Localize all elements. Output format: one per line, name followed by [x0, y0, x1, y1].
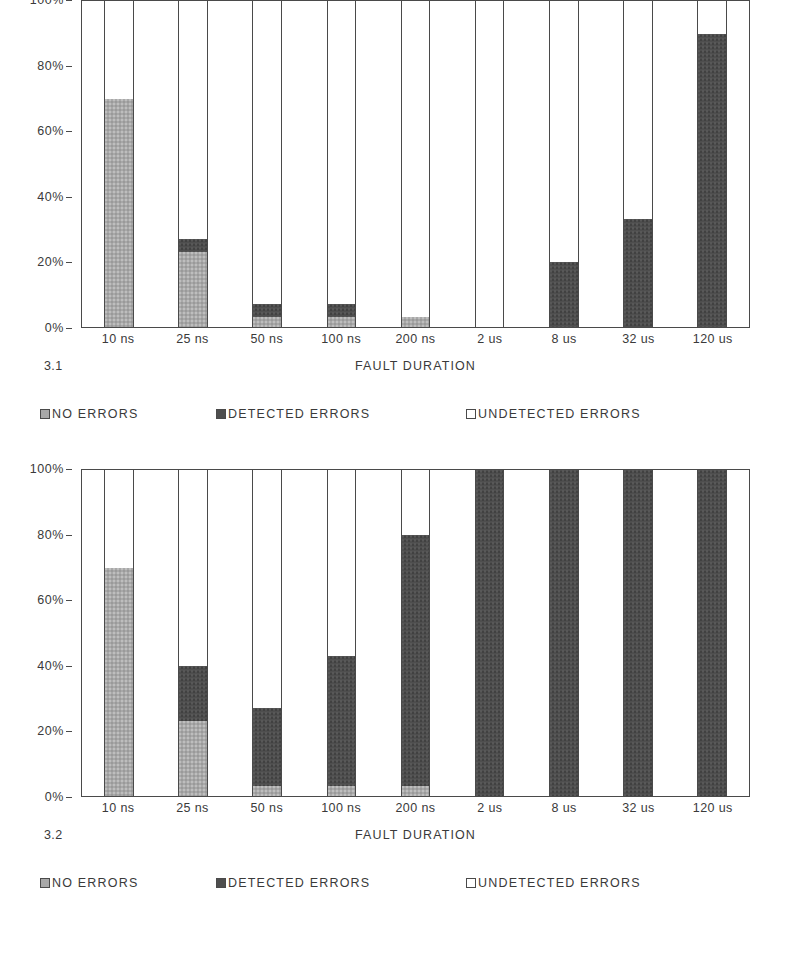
- stacked-bar[interactable]: [104, 1, 134, 327]
- y-tick-label: 80%: [37, 528, 64, 542]
- x-tick-label: 120 us: [676, 801, 750, 815]
- stacked-bar[interactable]: [401, 470, 431, 796]
- stacked-bar[interactable]: [104, 470, 134, 796]
- bar-segment-undetected-errors: [253, 1, 281, 304]
- bar-segment-undetected-errors: [253, 470, 281, 708]
- bar-slot: [82, 1, 156, 327]
- legend-item-undetected[interactable]: UNDETECTED ERRORS: [466, 407, 641, 421]
- stacked-bar[interactable]: [252, 1, 282, 327]
- x-tick-label: 50 ns: [230, 332, 304, 346]
- y-tick-mark: [66, 535, 72, 536]
- bar-segment-detected-errors: [698, 34, 726, 327]
- bar-segment-undetected-errors: [179, 1, 207, 239]
- bar-segment-no-errors: [402, 786, 430, 796]
- x-tick-label: 25 ns: [155, 801, 229, 815]
- bars-container-3-1: [81, 0, 750, 328]
- stacked-bar[interactable]: [401, 1, 431, 327]
- bar-slot: [230, 1, 304, 327]
- legend-item-none[interactable]: NO ERRORS: [40, 407, 139, 421]
- stacked-bar[interactable]: [549, 470, 579, 796]
- figure-number-3-2: 3.2: [44, 828, 63, 842]
- y-tick-label: 100%: [30, 462, 64, 476]
- y-tick-mark: [66, 600, 72, 601]
- y-tick-label: 0%: [45, 790, 64, 804]
- stacked-bar[interactable]: [327, 1, 357, 327]
- x-tick-label: 120 us: [676, 332, 750, 346]
- bar-slot: [601, 1, 675, 327]
- x-tick-label: 25 ns: [155, 332, 229, 346]
- legend-item-none[interactable]: NO ERRORS: [40, 876, 139, 890]
- legend-label: UNDETECTED ERRORS: [478, 407, 641, 421]
- x-tick-label: 8 us: [527, 332, 601, 346]
- legend-label: DETECTED ERRORS: [228, 407, 370, 421]
- stacked-bar[interactable]: [178, 470, 208, 796]
- x-tick-label: 100 ns: [304, 801, 378, 815]
- axis-title-row-3-2: 3.2 FAULT DURATION: [0, 828, 804, 854]
- legend-swatch-detected-errors: [216, 878, 226, 888]
- bar-segment-detected-errors: [179, 239, 207, 252]
- bar-slot: [304, 470, 378, 796]
- y-tick-label: 100%: [30, 0, 64, 7]
- stacked-bar[interactable]: [178, 1, 208, 327]
- bar-segment-undetected-errors: [179, 470, 207, 666]
- y-tick-label: 60%: [37, 124, 64, 138]
- y-tick-label: 40%: [37, 190, 64, 204]
- stacked-bar[interactable]: [475, 1, 505, 327]
- x-axis-categories-3-1: 10 ns25 ns50 ns100 ns200 ns2 us8 us32 us…: [81, 332, 750, 346]
- y-tick-mark: [66, 666, 72, 667]
- y-tick-label: 20%: [37, 255, 64, 269]
- bar-slot: [82, 470, 156, 796]
- bar-slot: [601, 470, 675, 796]
- legend-swatch-undetected-errors: [466, 409, 476, 419]
- axis-title-row-3-1: 3.1 FAULT DURATION: [0, 359, 804, 385]
- bar-slot: [675, 470, 749, 796]
- stacked-bar[interactable]: [549, 1, 579, 327]
- stacked-bar[interactable]: [697, 1, 727, 327]
- x-tick-label: 50 ns: [230, 801, 304, 815]
- stacked-bar[interactable]: [475, 470, 505, 796]
- stacked-bar[interactable]: [327, 470, 357, 796]
- legend-item-detected[interactable]: DETECTED ERRORS: [216, 407, 370, 421]
- plot-area-3-2: 0%20%40%60%80%100% 10 ns25 ns50 ns100 ns…: [0, 469, 804, 804]
- legend-item-undetected[interactable]: UNDETECTED ERRORS: [466, 876, 641, 890]
- bar-segment-undetected-errors: [105, 1, 133, 99]
- bar-segment-detected-errors: [402, 535, 430, 786]
- y-tick-mark: [66, 469, 72, 470]
- bar-slot: [675, 1, 749, 327]
- stacked-bar[interactable]: [697, 470, 727, 796]
- x-tick-label: 32 us: [601, 332, 675, 346]
- y-tick-mark: [66, 262, 72, 263]
- bar-slot: [230, 470, 304, 796]
- bar-segment-undetected-errors: [624, 1, 652, 219]
- y-tick-label: 60%: [37, 593, 64, 607]
- bar-segment-undetected-errors: [698, 1, 726, 34]
- y-tick-mark: [66, 0, 72, 1]
- x-tick-label: 2 us: [453, 332, 527, 346]
- bar-segment-detected-errors: [328, 304, 356, 317]
- bar-segment-no-errors: [328, 317, 356, 327]
- bar-segment-no-errors: [328, 786, 356, 796]
- stacked-bar[interactable]: [623, 470, 653, 796]
- bars-container-3-2: [81, 469, 750, 797]
- y-tick-mark: [66, 197, 72, 198]
- legend-item-detected[interactable]: DETECTED ERRORS: [216, 876, 370, 890]
- y-tick-label: 40%: [37, 659, 64, 673]
- bar-segment-detected-errors: [328, 656, 356, 786]
- bar-segment-detected-errors: [550, 470, 578, 796]
- legend-swatch-detected-errors: [216, 409, 226, 419]
- bar-segment-no-errors: [179, 252, 207, 327]
- figure-3-2: 0%20%40%60%80%100% 10 ns25 ns50 ns100 ns…: [0, 469, 804, 958]
- bar-slot: [527, 470, 601, 796]
- stacked-bar[interactable]: [623, 1, 653, 327]
- x-axis-title-3-1: FAULT DURATION: [81, 359, 750, 373]
- bar-slot: [453, 1, 527, 327]
- legend-swatch-no-errors: [40, 878, 50, 888]
- bar-segment-undetected-errors: [550, 1, 578, 262]
- bar-segment-undetected-errors: [328, 1, 356, 304]
- stacked-bar[interactable]: [252, 470, 282, 796]
- bar-segment-detected-errors: [624, 470, 652, 796]
- x-tick-label: 200 ns: [378, 801, 452, 815]
- y-tick-mark: [66, 797, 72, 798]
- bar-segment-undetected-errors: [328, 470, 356, 656]
- x-tick-label: 200 ns: [378, 332, 452, 346]
